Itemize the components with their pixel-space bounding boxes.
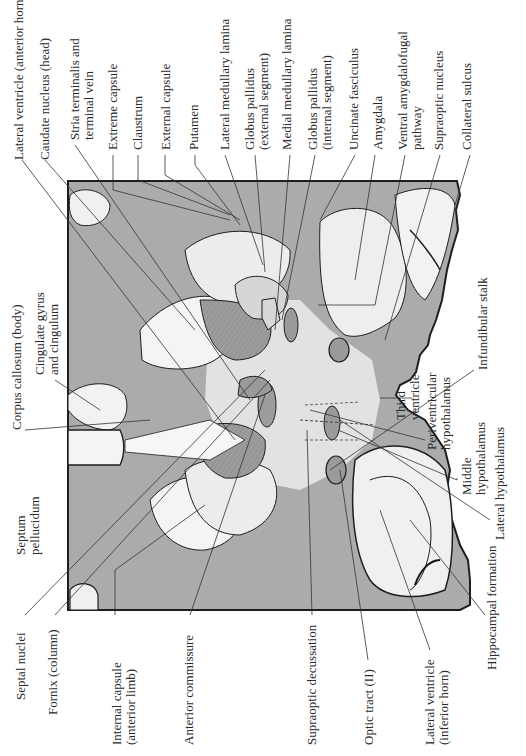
label-uncinate-fasciculus: Uncinate fasciculus [347, 48, 361, 150]
label-extreme-capsule: Extreme capsule [106, 64, 120, 150]
label-caudate-nucleus-head: Caudate nucleus (head) [38, 38, 52, 160]
label-medial-medullary-lamina: Medial medullary lamina [280, 19, 294, 150]
label-infundibular-stalk: Infundibular stalk [476, 277, 490, 370]
label-external-capsule: External capsule [159, 64, 173, 150]
label-internal-capsule-anterior-limb: Internal capsule (anterior limb) [110, 662, 138, 745]
corpus-callosum-shape [68, 430, 124, 465]
label-corpus-callosum-body: Corpus callosum (body) [10, 304, 24, 430]
label-ventral-amygdalofugal-pathway: Ventral amygdalofugal pathway [396, 31, 424, 150]
label-globus-pallidus-internal: Globus pallidus (internal segment) [306, 55, 334, 150]
label-third-ventricle: Third ventricle [394, 375, 422, 420]
supraoptic-nucleus-lower-shape [326, 456, 346, 484]
label-supraoptic-nucleus: Supraoptic nucleus [432, 51, 446, 150]
label-fornix-column: Fornix (column) [46, 629, 60, 715]
cortex-shape-bottom [70, 584, 98, 610]
label-claustrum: Claustrum [131, 96, 145, 150]
label-lateral-hypothalamus: Lateral hypothalamus [493, 427, 507, 540]
label-anterior-commissure: Anterior commissure [182, 635, 196, 745]
label-lateral-ventricle-anterior-horn: Lateral ventricle (anterior horn) [12, 0, 26, 160]
label-lateral-medullary-lamina: Lateral medullary lamina [218, 19, 232, 150]
amygdala-shape [320, 208, 407, 336]
label-globus-pallidus-external: Globus pallidus (external segment) [243, 53, 271, 150]
label-collateral-sulcus: Collateral sulcus [460, 63, 474, 150]
label-supraoptic-decussation: Supraoptic decussation [305, 625, 319, 745]
label-septum-pellucidum: Septum pellucidum [14, 497, 42, 556]
label-optic-tract: Optic tract (II) [362, 669, 376, 745]
label-lateral-ventricle-inferior-horn: Lateral ventricle (inferior horn) [423, 659, 451, 745]
supraoptic-nucleus-shape [329, 338, 349, 362]
label-periventricular-hypothalamus: Periventricular hypothalamus [425, 373, 453, 450]
label-hippocampal-formation: Hippocampal formation [485, 545, 499, 670]
label-septal-nuclei: Septal nuclei [14, 632, 28, 700]
optic-tract-upper [284, 308, 298, 342]
label-cingulate-gyrus: Cingulate gyrus and cingulum [33, 292, 61, 375]
label-amygdala: Amygdala [371, 96, 385, 150]
label-middle-hypothalamus: Middle hypothalamus [460, 422, 488, 495]
label-putamen: Putamen [187, 105, 201, 151]
label-stria-terminalis: Stria terminalis and terminal vein [68, 38, 96, 140]
